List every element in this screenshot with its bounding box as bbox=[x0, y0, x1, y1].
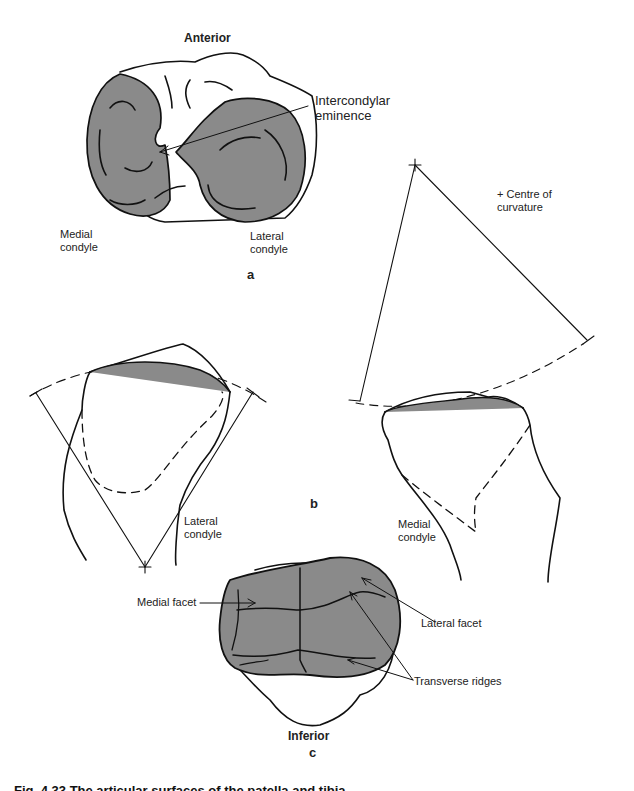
label-centre-of-curvature: + Centre of curvature bbox=[497, 188, 552, 214]
label-lateral-condyle-a: Lateral condyle bbox=[250, 230, 288, 256]
panel-b-right-drawing bbox=[349, 159, 594, 582]
panel-c-title: Inferior bbox=[288, 730, 329, 743]
label-medial-facet: Medial facet bbox=[137, 596, 196, 609]
label-transverse-ridges: Transverse ridges bbox=[414, 675, 502, 688]
label-lateral-facet: Lateral facet bbox=[421, 617, 482, 630]
panel-a-title: Anterior bbox=[184, 32, 231, 45]
panel-label-b: b bbox=[310, 497, 318, 510]
panel-b-left-drawing bbox=[30, 344, 266, 573]
panel-label-c: c bbox=[309, 746, 316, 759]
label-medial-condyle-b: Medial condyle bbox=[398, 518, 436, 544]
panel-a-drawing bbox=[87, 53, 317, 222]
label-lateral-condyle-b: Lateral condyle bbox=[184, 515, 222, 541]
label-medial-condyle-a: Medial condyle bbox=[60, 228, 98, 254]
panel-c-drawing bbox=[200, 557, 435, 725]
label-intercondylar-eminence: Intercondylar eminence bbox=[315, 93, 390, 123]
panel-label-a: a bbox=[247, 268, 254, 281]
figure-caption: Fig. 4.33 The articular surfaces of the … bbox=[14, 783, 346, 791]
